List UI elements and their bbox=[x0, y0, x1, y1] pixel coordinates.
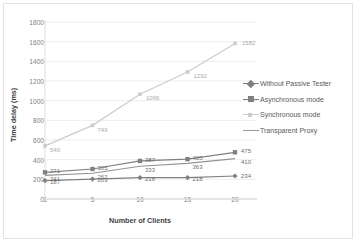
data-point-label: 387 bbox=[145, 157, 155, 163]
legend-label: Without Passive Tester bbox=[259, 80, 331, 87]
legend-label: Asynchronous mode bbox=[259, 96, 324, 103]
chart-legend: Without Passive TesterAsynchronous modeS… bbox=[243, 76, 355, 138]
data-point-label: 271 bbox=[50, 168, 60, 174]
data-point-label: 305 bbox=[98, 165, 108, 171]
data-point-label: 218 bbox=[145, 176, 155, 182]
data-point-label: 333 bbox=[145, 167, 155, 173]
data-point-label: 475 bbox=[241, 148, 251, 154]
legend-item[interactable]: Asynchronous mode bbox=[243, 92, 355, 108]
data-point-label: 218 bbox=[193, 176, 203, 182]
data-point-label: 241 bbox=[50, 176, 60, 182]
legend-marker-icon bbox=[243, 78, 259, 89]
data-point-label: 410 bbox=[241, 159, 251, 165]
data-point-label: 262 bbox=[98, 174, 108, 180]
legend-marker-icon bbox=[243, 109, 259, 120]
data-point-label: 1066 bbox=[146, 95, 159, 101]
legend-label: Transparent Proxy bbox=[259, 127, 317, 134]
data-point-label: 1582 bbox=[242, 40, 255, 46]
data-point-label: 1292 bbox=[194, 73, 207, 79]
legend-item[interactable]: Synchronous mode bbox=[243, 107, 355, 123]
data-point-label: 540 bbox=[50, 147, 60, 153]
legend-marker-icon bbox=[243, 125, 259, 136]
data-point-label: 405 bbox=[193, 155, 203, 161]
data-point-label: 749 bbox=[98, 127, 108, 133]
legend-item[interactable]: Without Passive Tester bbox=[243, 76, 355, 92]
legend-item[interactable]: Transparent Proxy bbox=[243, 123, 355, 139]
data-point-label: 234 bbox=[241, 173, 251, 179]
legend-marker-icon bbox=[243, 94, 259, 105]
legend-label: Synchronous mode bbox=[259, 111, 320, 118]
data-point-label: 363 bbox=[193, 164, 203, 170]
